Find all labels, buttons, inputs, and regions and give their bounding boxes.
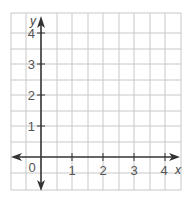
x-tick-label: 1 bbox=[68, 163, 75, 178]
x-tick-label: 2 bbox=[99, 163, 106, 178]
origin-label: 0 bbox=[28, 160, 35, 175]
x-axis-label: x bbox=[174, 163, 182, 177]
grid-lines bbox=[11, 13, 181, 190]
coordinate-grid: 0 1 2 3 4 1 2 3 4 x y bbox=[0, 0, 191, 201]
x-tick-label: 4 bbox=[160, 163, 167, 178]
x-tick-label: 3 bbox=[130, 163, 137, 178]
y-tick-label: 3 bbox=[28, 57, 35, 72]
y-tick-label: 2 bbox=[28, 88, 35, 103]
y-axis-label: y bbox=[29, 14, 37, 28]
y-tick-label: 4 bbox=[28, 26, 35, 41]
y-tick-label: 1 bbox=[28, 119, 35, 134]
